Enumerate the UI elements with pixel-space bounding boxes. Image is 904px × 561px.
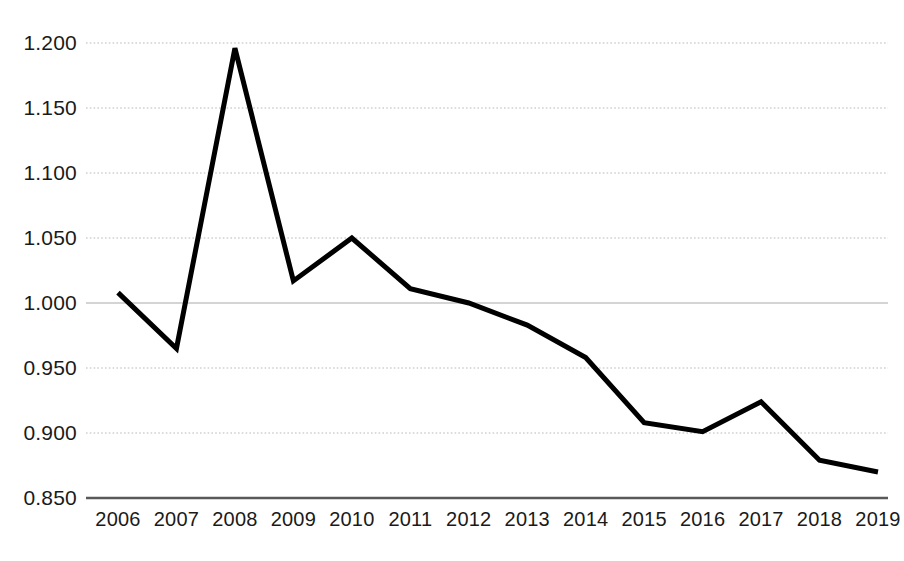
y-axis-tick-label: 1.200 (23, 32, 77, 53)
chart-plot-area (0, 0, 904, 561)
y-axis-tick-label: 0.850 (23, 487, 77, 508)
x-axis-tick-label: 2012 (437, 509, 501, 529)
y-axis-tick-label: 0.950 (23, 357, 77, 378)
y-axis-tick-label: 1.000 (23, 292, 77, 313)
x-axis-tick-label: 2018 (788, 509, 852, 529)
y-axis-tick-label: 1.100 (23, 162, 77, 183)
x-axis-tick-label: 2008 (203, 509, 267, 529)
x-axis-tick-label: 2007 (144, 509, 208, 529)
line-chart: 0.8500.9000.9501.0001.0501.1001.1501.200… (0, 0, 904, 561)
x-axis-tick-label: 2013 (495, 509, 559, 529)
y-axis-tick-label: 1.050 (23, 227, 77, 248)
x-axis-tick-label: 2015 (612, 509, 676, 529)
data-series-line (118, 48, 878, 472)
x-axis-tick-label: 2011 (378, 509, 442, 529)
x-axis-tick-label: 2019 (846, 509, 904, 529)
x-axis-tick-label: 2017 (729, 509, 793, 529)
series-polyline (118, 48, 878, 472)
gridlines (86, 43, 888, 433)
x-axis-tick-label: 2014 (554, 509, 618, 529)
x-axis-tick-label: 2010 (320, 509, 384, 529)
y-axis-tick-label: 1.150 (23, 97, 77, 118)
x-axis-tick-label: 2009 (261, 509, 325, 529)
y-axis-tick-label: 0.900 (23, 422, 77, 443)
x-axis-tick-label: 2016 (671, 509, 735, 529)
x-axis-tick-label: 2006 (86, 509, 150, 529)
